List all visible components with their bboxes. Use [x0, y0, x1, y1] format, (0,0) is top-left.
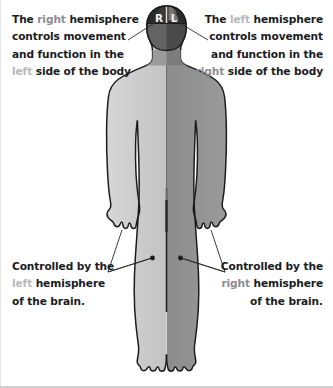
callout-top-right-line2: controls movement — [196, 28, 323, 45]
knee-dot-right — [178, 256, 183, 261]
text-hemisphere: hemisphere — [250, 277, 323, 289]
callout-bottom-right-line2: right hemisphere — [221, 275, 323, 292]
callout-bottom-right-line1: Controlled by the — [221, 258, 323, 275]
callout-top-right: The left hemisphere controls movement an… — [196, 11, 323, 81]
callout-bottom-left-line3: of the brain. — [12, 293, 114, 310]
callout-bottom-left-line1: Controlled by the — [12, 258, 114, 275]
callout-top-right-line1: The left hemisphere — [196, 11, 323, 28]
callout-top-right-line3: and function in the — [196, 46, 323, 63]
callout-bottom-left-line2: left hemisphere — [12, 275, 114, 292]
text-left-highlight: left — [230, 13, 250, 25]
callout-top-left-line1: The right hemisphere — [12, 11, 139, 28]
knee-dot-left — [150, 256, 155, 261]
left-edge-border — [0, 0, 1, 388]
text-hemisphere: hemisphere — [250, 13, 323, 25]
callout-bottom-left: Controlled by the left hemisphere of the… — [12, 258, 114, 310]
text-right-highlight: right — [196, 65, 225, 77]
text-left-highlight: left — [12, 65, 32, 77]
callout-top-right-line4: right side of the body — [196, 63, 323, 80]
text-side-of-body: side of the body — [32, 65, 131, 77]
callout-top-left-line2: controls movement — [12, 28, 139, 45]
text-left-highlight: left — [12, 277, 32, 289]
head-lower-right — [167, 24, 186, 51]
text-right-highlight: right — [37, 13, 66, 25]
text-hemisphere: hemisphere — [66, 13, 139, 25]
diagram-page: R L The right hemisphere controls moveme… — [0, 0, 333, 388]
callout-top-left-line4: left side of the body — [12, 63, 139, 80]
callout-bottom-right: Controlled by the right hemisphere of th… — [221, 258, 323, 310]
callout-top-left-line3: and function in the — [12, 46, 139, 63]
callout-bottom-right-line3: of the brain. — [221, 293, 323, 310]
text-hemisphere: hemisphere — [32, 277, 105, 289]
text-right-highlight: right — [221, 277, 250, 289]
brain-label-left: L — [171, 12, 178, 24]
brain-label-right: R — [155, 12, 163, 24]
callout-top-left: The right hemisphere controls movement a… — [12, 11, 139, 81]
text-the: The — [12, 13, 37, 25]
text-the: The — [205, 13, 230, 25]
text-side-of-body: side of the body — [224, 65, 323, 77]
